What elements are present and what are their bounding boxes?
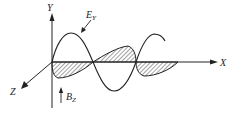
z-axis-arrowhead — [21, 81, 29, 89]
b-field-arrow — [59, 87, 63, 103]
y-axis-label: Y — [47, 2, 54, 13]
b-field-label: BZ — [66, 91, 76, 104]
b-lobe-3 — [136, 62, 178, 76]
e-field-pointer — [81, 20, 91, 33]
y-axis-arrowhead — [50, 13, 55, 21]
em-wave-diagram: Y X Z EY BZ — [0, 0, 235, 113]
z-axis — [25, 62, 52, 85]
b-lobe-1 — [52, 62, 93, 78]
e-field-label-main: E — [85, 9, 92, 20]
b-lobe-2 — [93, 46, 136, 62]
e-field-label-sub: Y — [92, 14, 97, 22]
x-axis-label: X — [219, 57, 227, 68]
b-field-label-sub: Z — [72, 96, 76, 104]
z-axis-label: Z — [10, 86, 16, 97]
x-axis-arrowhead — [210, 60, 218, 65]
